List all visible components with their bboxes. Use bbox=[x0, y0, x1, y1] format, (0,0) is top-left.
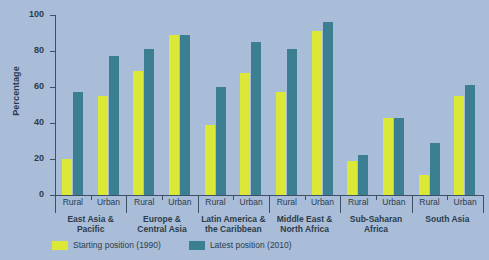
category-axis: RuralUrbanRuralUrbanRuralUrbanRuralUrban… bbox=[55, 195, 484, 213]
legend-label-start: Starting position (1990) bbox=[73, 240, 161, 250]
legend-swatch-latest bbox=[189, 241, 205, 250]
y-tick-label: 0 bbox=[16, 190, 44, 199]
bar-latest bbox=[251, 42, 261, 195]
y-tick-label: 40 bbox=[16, 118, 44, 127]
sub-category-label: Rural bbox=[124, 198, 164, 207]
legend-item-latest: Latest position (2010) bbox=[189, 240, 292, 250]
y-tick-label: 100 bbox=[16, 10, 44, 19]
bar-chart: Percentage 020406080100 RuralUrbanRuralU… bbox=[0, 0, 489, 260]
plot-area bbox=[55, 15, 483, 195]
sub-category-label: Urban bbox=[89, 198, 129, 207]
bar-start bbox=[98, 96, 108, 195]
legend-swatch-start bbox=[52, 241, 68, 250]
y-tick-label: 20 bbox=[16, 154, 44, 163]
sub-category-label: Rural bbox=[338, 198, 378, 207]
sub-category-label: Urban bbox=[374, 198, 414, 207]
bar-start bbox=[62, 159, 72, 195]
bar-latest bbox=[430, 143, 440, 195]
bar-start bbox=[312, 31, 322, 195]
bar-latest bbox=[216, 87, 226, 195]
chart-legend: Starting position (1990)Latest position … bbox=[52, 240, 314, 250]
bar-latest bbox=[73, 92, 83, 195]
bar-start bbox=[383, 118, 393, 195]
bar-start bbox=[347, 161, 357, 195]
sub-category-label: Urban bbox=[160, 198, 200, 207]
sub-category-label: Urban bbox=[445, 198, 485, 207]
bar-latest bbox=[109, 56, 119, 195]
legend-item-start: Starting position (1990) bbox=[52, 240, 161, 250]
sub-category-label: Rural bbox=[53, 198, 93, 207]
sub-category-label: Rural bbox=[196, 198, 236, 207]
bar-latest bbox=[465, 85, 475, 195]
bar-start bbox=[205, 125, 215, 195]
legend-label-latest: Latest position (2010) bbox=[210, 240, 292, 250]
bar-latest bbox=[180, 35, 190, 195]
bar-latest bbox=[394, 118, 404, 195]
y-tick-label: 80 bbox=[16, 46, 44, 55]
bar-start bbox=[276, 92, 286, 195]
bar-start bbox=[454, 96, 464, 195]
sub-category-label: Urban bbox=[303, 198, 343, 207]
bar-latest bbox=[323, 22, 333, 195]
bar-start bbox=[240, 73, 250, 195]
sub-category-label: Urban bbox=[231, 198, 271, 207]
bar-latest bbox=[144, 49, 154, 195]
sub-category-label: Rural bbox=[410, 198, 450, 207]
bar-start bbox=[419, 175, 429, 195]
sub-category-label: Rural bbox=[267, 198, 307, 207]
bar-start bbox=[169, 35, 179, 195]
bar-latest bbox=[287, 49, 297, 195]
y-tick-label: 60 bbox=[16, 82, 44, 91]
group-name-label: South Asia bbox=[399, 215, 489, 225]
y-axis-label: Percentage bbox=[11, 56, 21, 126]
bar-start bbox=[133, 71, 143, 195]
bar-latest bbox=[358, 155, 368, 195]
